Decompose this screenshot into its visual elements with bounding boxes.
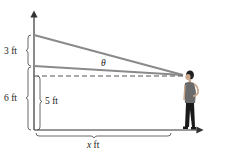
sight-line-top xyxy=(34,35,183,75)
brace-x-ft xyxy=(36,133,171,138)
brace-3ft xyxy=(26,35,31,66)
label-5ft: 5 ft xyxy=(45,96,58,106)
person-shirt xyxy=(184,82,196,103)
label-theta: θ xyxy=(101,58,106,68)
person-pants xyxy=(185,103,195,127)
diagram-canvas: 3 ft 6 ft 5 ft x ft θ xyxy=(0,0,234,153)
sight-line-bottom xyxy=(34,66,183,75)
brace-6ft xyxy=(26,67,31,130)
label-3ft: 3 ft xyxy=(4,46,17,56)
person-figure xyxy=(183,71,198,130)
label-6ft: 6 ft xyxy=(4,93,17,103)
label-x-ft: x ft xyxy=(86,140,100,150)
brace-5ft xyxy=(37,76,42,130)
